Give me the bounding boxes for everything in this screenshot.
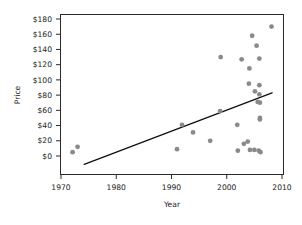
y-axis-tick-labels: $0$20$40$60$80$100$120$140$160$180 [33,15,52,161]
scatter-plot-figure: $0$20$40$60$80$100$120$140$160$180 19701… [0,0,302,225]
data-point [258,100,263,105]
data-point [248,148,253,153]
plot-canvas: $0$20$40$60$80$100$120$140$160$180 19701… [0,0,302,225]
data-point [252,148,257,153]
y-tick-label: $180 [33,15,52,24]
x-tick-label: 1970 [51,183,70,192]
data-point [258,150,263,155]
y-tick-label: $60 [38,106,53,115]
x-tick-label: 1980 [107,183,126,192]
y-tick-label: $160 [33,30,52,39]
y-tick-label: $140 [33,45,52,54]
data-point [180,122,185,127]
data-point [70,150,75,155]
y-axis-title: Price [13,85,22,104]
y-tick-label: $120 [33,60,52,69]
y-tick-label: $40 [38,121,53,130]
y-axis-ticks [56,19,61,156]
data-point [257,83,262,88]
y-tick-label: $80 [38,91,53,100]
data-point [246,81,251,86]
data-point [218,55,223,60]
data-point [208,138,213,143]
data-point [75,144,80,149]
data-point [235,122,240,127]
x-axis-title: Year [163,200,181,209]
y-tick-label: $100 [33,76,52,85]
x-axis-tick-labels: 19701980199020002010 [51,183,291,192]
x-tick-label: 2010 [272,183,291,192]
data-point [269,24,274,29]
data-point [245,139,250,144]
data-point [257,56,262,61]
data-points [70,24,274,154]
data-point [257,92,262,97]
trend-line [84,93,272,165]
data-point [239,57,244,62]
data-point [191,130,196,135]
x-tick-label: 1990 [162,183,181,192]
trend-line-segment [84,93,272,165]
data-point [218,109,223,114]
data-point [253,89,258,94]
data-point [247,66,252,71]
data-point [254,43,259,48]
data-point [250,33,255,38]
y-tick-label: $20 [38,136,53,145]
x-axis-ticks [61,175,282,180]
data-point [175,147,180,152]
data-point [235,148,240,153]
y-tick-label: $0 [42,152,52,161]
data-point [258,117,263,122]
x-tick-label: 2000 [217,183,236,192]
